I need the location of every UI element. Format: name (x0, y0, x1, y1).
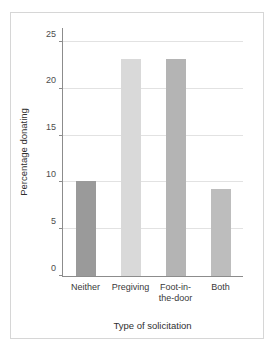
y-tick-label: 20 (46, 76, 56, 85)
x-tick-label: Both (211, 282, 230, 293)
y-tick-mark (59, 228, 63, 229)
gridline (63, 41, 243, 42)
bar (121, 59, 141, 276)
chart-figure: 0510152025 NeitherPregivingFoot-in- the-… (0, 0, 278, 350)
y-tick-mark (59, 41, 63, 42)
x-tick-label: Pregiving (112, 282, 150, 293)
gridline (63, 88, 243, 89)
y-tick-label: 10 (46, 169, 56, 178)
x-axis-title: Type of solicitation (62, 321, 243, 331)
x-tick-label: Foot-in- the-door (159, 282, 193, 303)
bar (76, 181, 96, 276)
bar (211, 189, 231, 276)
y-tick-mark (59, 88, 63, 89)
y-tick-mark (59, 181, 63, 182)
y-tick-label: 5 (51, 216, 56, 225)
y-axis-title: Percentage donating (19, 108, 29, 196)
x-tick-label: Neither (71, 282, 100, 293)
plot-area: 0510152025 NeitherPregivingFoot-in- the-… (62, 28, 243, 277)
y-tick-label: 15 (46, 123, 56, 132)
y-tick-label: 0 (51, 263, 56, 272)
y-tick-mark (59, 275, 63, 276)
y-tick-label: 25 (46, 29, 56, 38)
y-tick-mark (59, 135, 63, 136)
bar (166, 59, 186, 276)
gridline (63, 135, 243, 136)
